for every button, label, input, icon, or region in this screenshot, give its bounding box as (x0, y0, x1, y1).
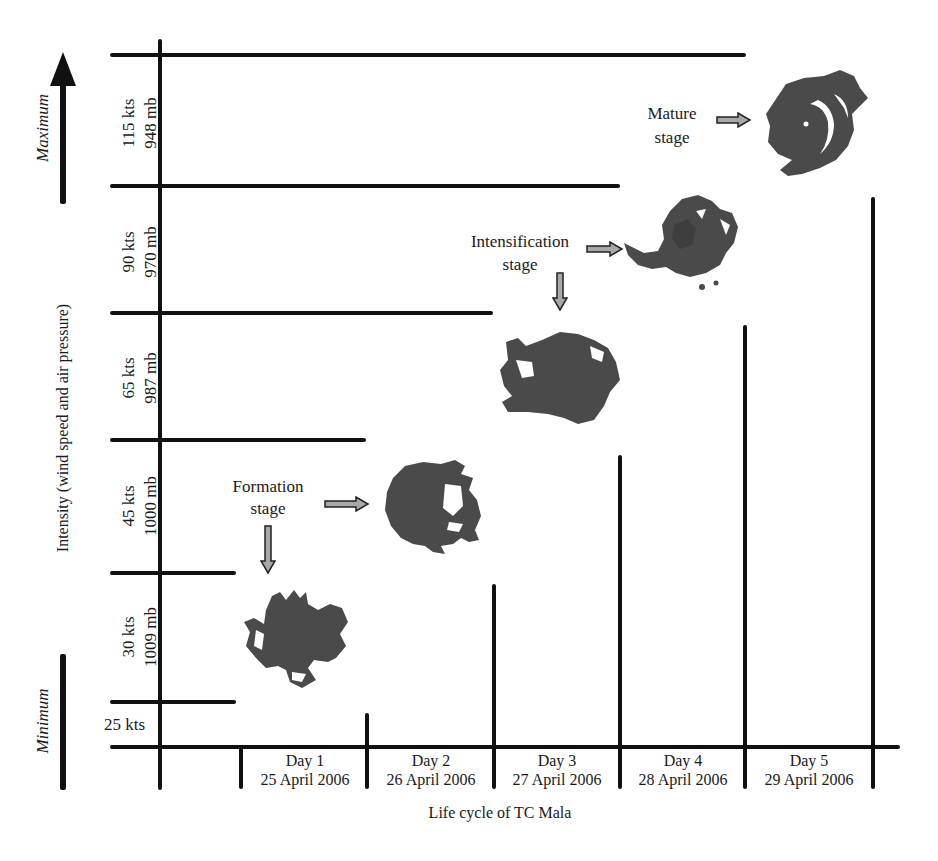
day-label-3: Day 3 27 April 2006 (495, 751, 619, 789)
level-label-115: 115 kts 948 mb (118, 68, 162, 178)
day-divider-4 (743, 325, 747, 789)
level-wind: 45 kts (118, 451, 140, 561)
stage-line2: stage (632, 126, 712, 150)
day-label-5: Day 5 29 April 2006 (747, 751, 871, 789)
level-line-45 (110, 438, 366, 442)
arrow-right-icon (716, 112, 752, 128)
stage-line2: stage (210, 498, 326, 520)
storm-image-day1 (242, 588, 352, 690)
arrow-down-icon (552, 272, 568, 312)
storm-image-day2 (383, 460, 483, 556)
level-line-115 (110, 53, 746, 57)
day-label-2: Day 2 26 April 2006 (369, 751, 493, 789)
storm-image-day3 (498, 330, 622, 426)
level-wind: 30 kts (118, 582, 140, 692)
day-name: Day 4 (621, 751, 745, 770)
minimum-bar (60, 654, 66, 790)
level-wind: 65 kts (118, 323, 140, 433)
day-divider-5 (871, 197, 875, 789)
x-axis-label: Life cycle of TC Mala (380, 803, 620, 823)
day-name: Day 2 (369, 751, 493, 770)
storm-image-day4 (622, 195, 742, 305)
y-axis-line (158, 39, 162, 790)
day-name: Day 3 (495, 751, 619, 770)
level-wind: 90 kts (118, 197, 140, 307)
maximum-arrow-shaft (60, 80, 66, 204)
storm-image-day5 (764, 70, 872, 178)
arrow-right-icon (586, 241, 624, 257)
level-label-30: 30 kts 1009 mb (118, 582, 162, 692)
arrow-down-icon (260, 525, 276, 575)
day-label-1: Day 1 25 April 2006 (243, 751, 367, 789)
level-wind: 115 kts (118, 68, 140, 178)
y-axis-label: Intensity (wind speed and air pressure) (53, 253, 73, 603)
maximum-label: Maximum (33, 68, 53, 188)
stage-line1: Mature (632, 102, 712, 126)
stage-label-intensification: Intensification stage (448, 230, 592, 276)
stage-line1: Formation (210, 476, 326, 498)
day-label-4: Day 4 28 April 2006 (621, 751, 745, 789)
stage-line2: stage (448, 253, 592, 276)
level-line-25 (110, 700, 236, 704)
day-date: 27 April 2006 (495, 770, 619, 789)
day-name: Day 1 (243, 751, 367, 770)
day-divider-3 (618, 455, 622, 789)
level-line-90 (110, 184, 620, 188)
day-date: 25 April 2006 (243, 770, 367, 789)
level-label-45: 45 kts 1000 mb (118, 451, 162, 561)
level-label-90: 90 kts 970 mb (118, 197, 162, 307)
stage-label-mature: Mature stage (632, 102, 712, 150)
day-date: 29 April 2006 (747, 770, 871, 789)
level-label-65: 65 kts 987 mb (118, 323, 162, 433)
stage-line1: Intensification (448, 230, 592, 253)
x-axis-baseline (110, 745, 900, 749)
day-date: 26 April 2006 (369, 770, 493, 789)
arrow-right-icon (324, 496, 370, 512)
minimum-label: Minimum (33, 661, 53, 781)
level-line-65 (110, 311, 493, 315)
level-line-30 (110, 571, 236, 575)
level-label-25: 25 kts (104, 715, 145, 735)
day-name: Day 5 (747, 751, 871, 770)
day-date: 28 April 2006 (621, 770, 745, 789)
stage-label-formation: Formation stage (210, 476, 326, 520)
arrow-up-icon (50, 52, 76, 86)
